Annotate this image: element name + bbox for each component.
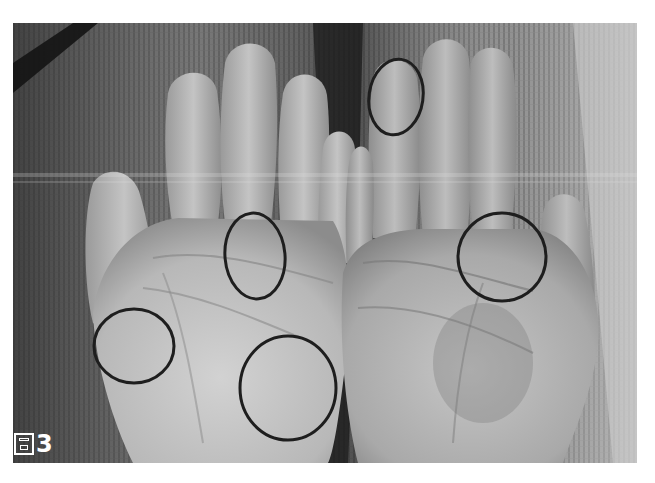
palm-photo: 圖 3: [13, 23, 637, 463]
palm-photo-illustration: [13, 23, 637, 463]
figure-glyph: 圖: [14, 433, 34, 455]
figure-caption: 圖 3: [14, 429, 53, 459]
figure-number: 3: [36, 432, 53, 456]
